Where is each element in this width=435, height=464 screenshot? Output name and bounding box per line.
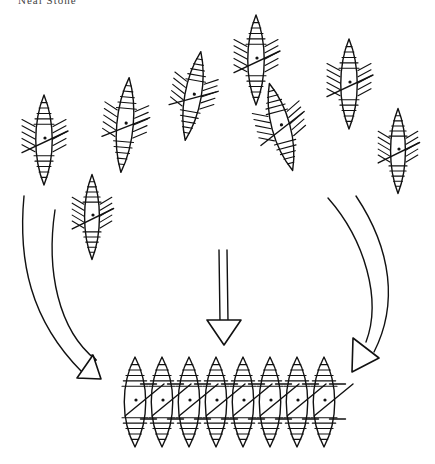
cell-alignment-diagram (0, 0, 435, 464)
spindle-cell (378, 109, 419, 194)
spindle-cell (327, 39, 373, 129)
scattered-cells-group (22, 15, 420, 260)
spindle-cell (234, 15, 280, 105)
left-curved-arrow (23, 196, 101, 379)
aligned-cell (311, 357, 353, 447)
spindle-cell (72, 175, 113, 260)
center-straight-arrow (207, 250, 241, 345)
right-curved-arrow (328, 196, 388, 372)
aligned-cell-chain (122, 357, 353, 447)
spindle-cell (22, 95, 68, 185)
arrows-group (23, 196, 389, 379)
spindle-cell (164, 48, 225, 145)
spindle-cell (99, 76, 153, 175)
